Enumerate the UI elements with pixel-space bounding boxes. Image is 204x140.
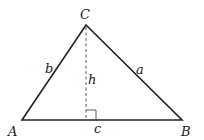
vertex-label-c: C bbox=[80, 7, 90, 22]
triangle-diagram: A B C a b c h bbox=[0, 0, 204, 140]
altitude-label-h: h bbox=[88, 72, 96, 87]
right-angle-marker bbox=[86, 110, 96, 120]
vertex-label-b: B bbox=[180, 124, 191, 139]
side-label-b: b bbox=[45, 61, 53, 76]
triangle-svg: A B C a b c h bbox=[0, 0, 204, 140]
vertex-label-a: A bbox=[7, 124, 17, 139]
side-label-a: a bbox=[136, 62, 144, 77]
side-label-c: c bbox=[94, 121, 102, 136]
